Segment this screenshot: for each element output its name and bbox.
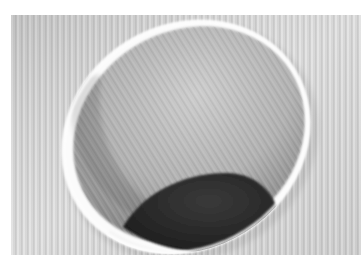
cup-photo-illustration [11, 15, 361, 255]
image-frame: White cup viewed from above at an angle … [0, 0, 363, 269]
photo [11, 15, 361, 255]
